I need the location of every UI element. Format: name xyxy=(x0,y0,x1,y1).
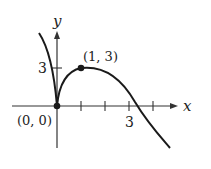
max-point-label: (1, 3) xyxy=(83,49,118,64)
x-axis-label: x xyxy=(183,97,192,115)
origin-point-label: (0, 0) xyxy=(17,113,52,128)
y-axis-label: y xyxy=(52,12,62,30)
y-axis-arrow-icon xyxy=(54,31,60,39)
x-tick-label-3: 3 xyxy=(125,114,134,130)
max-point xyxy=(78,65,85,72)
y-tick-label-3: 3 xyxy=(38,60,47,76)
x-axis-arrow-icon xyxy=(170,103,178,109)
origin-point xyxy=(54,103,61,110)
graph: y x 3 3 (0, 0) (1, 3) xyxy=(0,0,211,169)
